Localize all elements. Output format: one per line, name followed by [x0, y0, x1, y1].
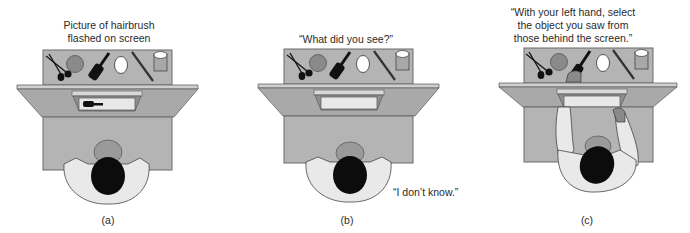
split-brain-scene-c [460, 0, 690, 233]
ball-icon [67, 56, 84, 73]
split-brain-scene-a [0, 0, 230, 233]
panel-a: Picture of hairbrush flashed on screen [0, 0, 230, 233]
panel-b: “What did you see?” “I don’t know.” [230, 0, 460, 233]
egg-icon [115, 57, 128, 74]
screen [321, 97, 377, 109]
panel-c: “With your left hand, select the object … [460, 0, 690, 233]
egg-icon [357, 56, 370, 73]
ball-icon [551, 54, 568, 71]
screen [564, 96, 620, 107]
split-brain-scene-b [230, 0, 460, 233]
egg-icon [597, 55, 610, 72]
ball-icon [310, 55, 327, 72]
panel-label: (a) [93, 214, 123, 226]
panel-label: (b) [332, 214, 362, 226]
patient-response: “I don’t know.” [393, 186, 458, 198]
panel-label: (c) [572, 214, 602, 226]
